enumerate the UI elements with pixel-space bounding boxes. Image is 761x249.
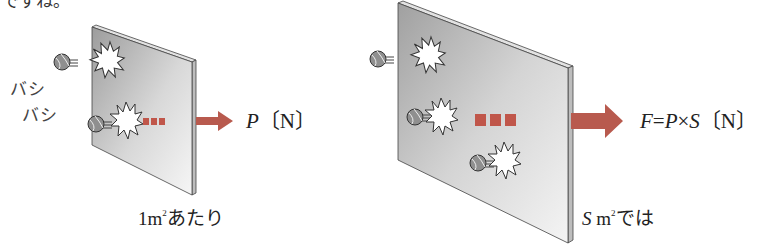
onomatopoeia-1: バシ (10, 81, 46, 98)
symbol-s: S (689, 109, 700, 133)
symbol-p: P (665, 109, 678, 133)
area-suffix: では (616, 208, 654, 229)
force-arrow-icon (571, 104, 623, 138)
symbol-f: F (640, 109, 653, 133)
area-label-sm2: S m2では (582, 209, 654, 228)
ellipsis-dots-icon (475, 114, 516, 126)
unit-n: 〔N〕 (700, 109, 757, 133)
area-suffix: あたり (167, 208, 224, 229)
force-label-f: F=P×S〔N〕 (640, 111, 757, 132)
onomatopoeia-2: バシ (22, 107, 58, 124)
area-value: 1m (138, 208, 162, 229)
symbol-p: P (246, 109, 259, 133)
top-text-fragment: ですね。 (2, 0, 70, 10)
times-sign: × (678, 109, 690, 133)
unit-n: 〔N〕 (259, 109, 316, 133)
area-symbol-s: S (582, 208, 592, 229)
force-arrow-icon (196, 111, 233, 131)
area-unit: m (592, 208, 612, 229)
area-label-1m2: 1m2あたり (138, 209, 224, 228)
ball-icon (370, 51, 394, 67)
equals-sign: = (653, 109, 665, 133)
ball-icon (54, 54, 78, 70)
force-label-p: P〔N〕 (246, 111, 316, 132)
ellipsis-dots-icon (143, 118, 165, 125)
